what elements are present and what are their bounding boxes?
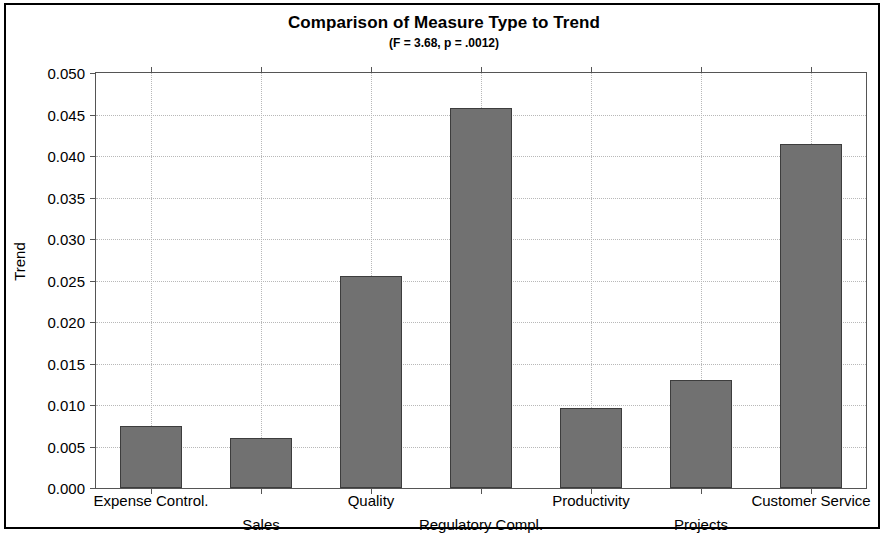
bar (120, 426, 182, 488)
y-axis-tick-label: 0.025 (47, 272, 85, 289)
x-axis-tick-label: Sales (242, 516, 280, 533)
y-axis-tick (90, 447, 96, 448)
x-axis-tick-label: Projects (674, 516, 728, 533)
y-axis-tick (90, 364, 96, 365)
y-axis-tick (90, 239, 96, 240)
y-axis-tick (90, 405, 96, 406)
y-axis-tick (90, 322, 96, 323)
x-axis-tick-top (591, 67, 592, 73)
chart-title: Comparison of Measure Type to Trend (6, 13, 882, 33)
plot-area: 0.0000.0050.0100.0150.0200.0250.0300.035… (95, 72, 867, 489)
y-axis-tick-label: 0.035 (47, 189, 85, 206)
x-axis-tick-top (811, 67, 812, 73)
bar (780, 144, 842, 488)
x-axis-tick-top (151, 67, 152, 73)
x-axis-tick-label: Quality (348, 492, 395, 509)
bar (230, 438, 292, 488)
gridline-vertical (261, 73, 262, 488)
x-axis-tick-bottom (701, 488, 702, 494)
x-axis-tick-label: Expense Control. (93, 492, 208, 509)
y-axis-tick-label: 0.030 (47, 231, 85, 248)
y-axis-tick-label: 0.020 (47, 314, 85, 331)
y-axis-tick-label: 0.040 (47, 148, 85, 165)
y-axis-tick-label: 0.050 (47, 65, 85, 82)
y-axis-tick-label: 0.045 (47, 106, 85, 123)
bar (450, 108, 512, 488)
bar (560, 408, 622, 488)
y-axis-tick (90, 198, 96, 199)
x-axis-tick-top (481, 67, 482, 73)
y-axis-tick-label: 0.010 (47, 397, 85, 414)
y-axis-tick-label: 0.005 (47, 438, 85, 455)
chart-subtitle: (F = 3.68, p = .0012) (6, 36, 882, 50)
y-axis-tick (90, 73, 96, 74)
x-axis-tick-label: Customer Service (751, 492, 870, 509)
y-axis-tick-label: 0.000 (47, 480, 85, 497)
x-axis-tick-bottom (481, 488, 482, 494)
bar (670, 380, 732, 488)
x-axis-tick-label: Productivity (552, 492, 630, 509)
y-axis-tick (90, 488, 96, 489)
chart-figure: Comparison of Measure Type to Trend (F =… (4, 3, 880, 529)
bar (340, 276, 402, 488)
y-axis-tick-label: 0.015 (47, 355, 85, 372)
y-axis-tick (90, 156, 96, 157)
y-axis-tick (90, 115, 96, 116)
x-axis-tick-bottom (261, 488, 262, 494)
x-axis-tick-top (261, 67, 262, 73)
y-axis-title: Trend (11, 227, 28, 297)
x-axis-tick-label: Regulatory Compl. (419, 516, 543, 533)
x-axis-tick-top (371, 67, 372, 73)
y-axis-tick (90, 281, 96, 282)
x-axis-tick-top (701, 67, 702, 73)
